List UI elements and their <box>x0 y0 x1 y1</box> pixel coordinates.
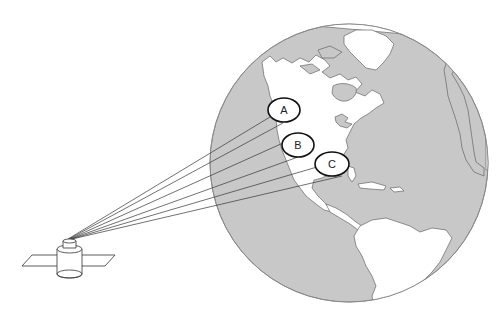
label-c: C <box>315 152 349 176</box>
solar-panel-right <box>80 255 115 266</box>
satellite-antenna-top <box>63 239 76 243</box>
label-b-text: B <box>294 139 301 151</box>
label-b: B <box>282 133 314 157</box>
label-c-text: C <box>328 158 336 170</box>
satellite-icon <box>22 239 115 278</box>
label-a: A <box>268 98 300 122</box>
solar-panel-left <box>22 255 60 266</box>
satellite-globe-diagram: A B C <box>0 0 500 321</box>
label-a-text: A <box>280 104 288 116</box>
